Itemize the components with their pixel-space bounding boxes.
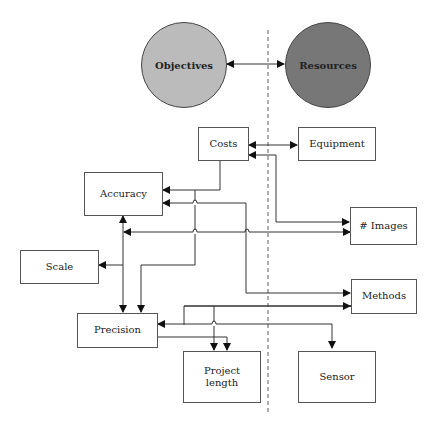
- precision-node: Precision: [77, 313, 158, 348]
- sensor-label: Sensor: [319, 371, 354, 384]
- objectives-label: Objectives: [155, 60, 213, 71]
- methods-node: Methods: [351, 279, 417, 314]
- costs-node: Costs: [198, 127, 249, 161]
- resources-label: Resources: [299, 60, 357, 71]
- project-length-label-line2: length: [206, 377, 238, 390]
- project-length-node: Project length: [183, 351, 261, 403]
- project-length-label-line1: Project: [204, 365, 240, 378]
- precision-label: Precision: [94, 324, 141, 337]
- methods-label: Methods: [362, 290, 406, 303]
- scale-label: Scale: [46, 261, 74, 274]
- images-label: # Images: [359, 220, 407, 233]
- objectives-circle: Objectives: [141, 22, 227, 108]
- images-node: # Images: [350, 207, 417, 245]
- equipment-node: Equipment: [298, 127, 376, 161]
- resources-circle: Resources: [285, 22, 371, 108]
- equipment-label: Equipment: [309, 138, 365, 151]
- scale-node: Scale: [20, 250, 99, 284]
- costs-label: Costs: [210, 138, 238, 151]
- accuracy-node: Accuracy: [84, 172, 163, 216]
- sensor-node: Sensor: [298, 351, 376, 403]
- accuracy-label: Accuracy: [100, 188, 147, 201]
